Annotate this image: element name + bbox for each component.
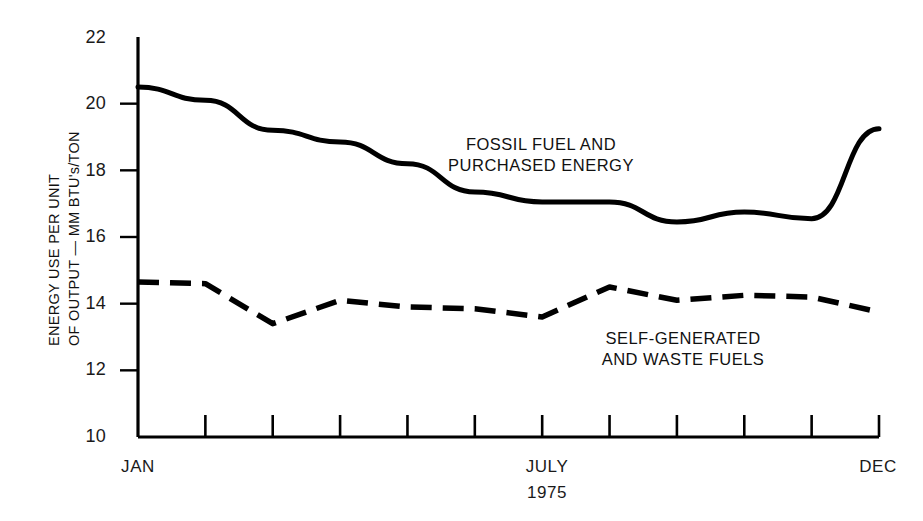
chart-figure: ENERGY USE PER UNIT OF OUTPUT — MM BTU's… [0, 0, 923, 521]
y-tick-label-18: 18 [66, 160, 106, 181]
series-line-self-generated [138, 282, 879, 324]
y-tick-label-14: 14 [66, 293, 106, 314]
annotation-self-line2: AND WASTE FUELS [543, 349, 823, 370]
x-tick-label-dec: DEC [848, 457, 908, 477]
y-tick-label-12: 12 [66, 359, 106, 380]
plot-area [0, 0, 923, 521]
y-tick-label-20: 20 [66, 93, 106, 114]
x-tick-label-july: JULY [512, 457, 582, 477]
axis-lines [138, 37, 879, 437]
x-tick-label-jan: JAN [108, 457, 168, 477]
annotation-self-line1: SELF-GENERATED [543, 328, 823, 349]
annotation-fossil-line1: FOSSIL FUEL AND [401, 134, 681, 155]
y-axis-ticks [120, 37, 138, 437]
series-annotation-self-generated: SELF-GENERATED AND WASTE FUELS [543, 328, 823, 370]
y-tick-label-22: 22 [66, 27, 106, 48]
y-axis-label-line1: ENERGY USE PER UNIT [44, 174, 64, 346]
y-tick-label-16: 16 [66, 226, 106, 247]
series-annotation-fossil-fuel: FOSSIL FUEL AND PURCHASED ENERGY [401, 134, 681, 176]
y-tick-label-10: 10 [66, 426, 106, 447]
x-axis-year-label: 1975 [512, 483, 582, 503]
x-axis-ticks [138, 415, 879, 437]
annotation-fossil-line2: PURCHASED ENERGY [401, 155, 681, 176]
